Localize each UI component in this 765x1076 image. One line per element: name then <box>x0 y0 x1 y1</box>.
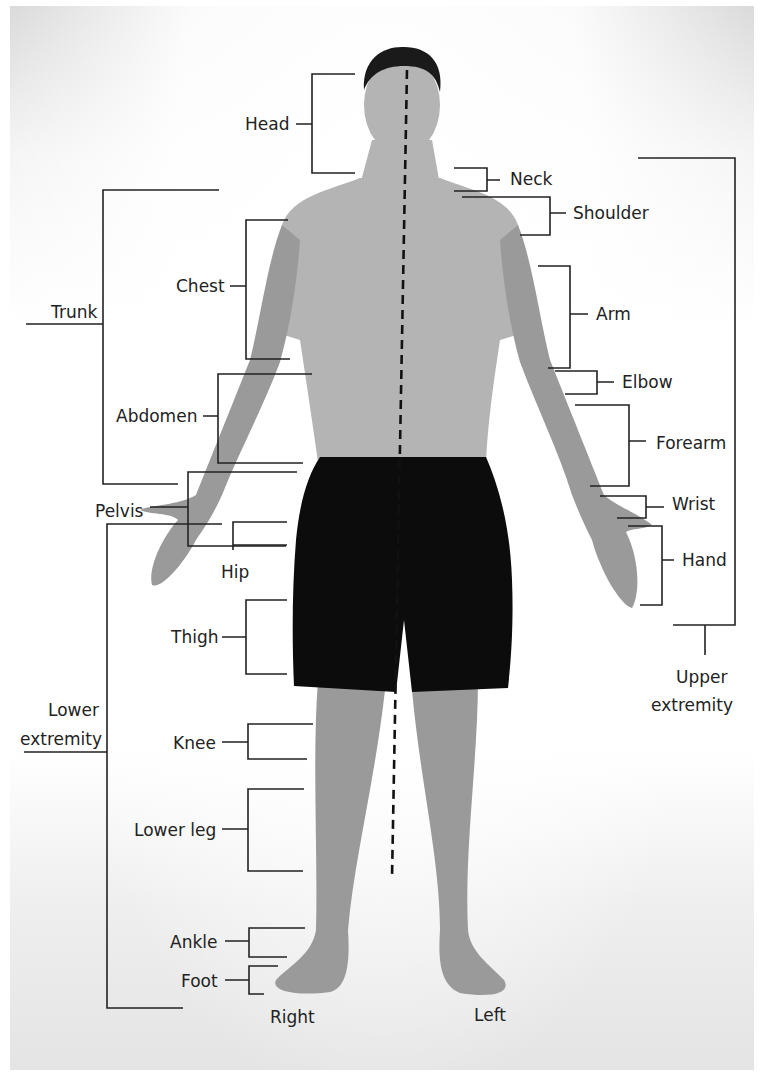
trunk-bracket <box>26 190 219 484</box>
thigh-bracket <box>222 600 287 674</box>
label-abdomen: Abdomen <box>116 406 197 426</box>
label-lower-leg: Lower leg <box>134 820 216 840</box>
diagram-svg: HeadNeckShoulderTrunkChestArmElbowAbdome… <box>0 0 765 1076</box>
label-lower-extremity-1: Lower <box>48 700 99 720</box>
label-hand: Hand <box>682 550 727 570</box>
head-bracket <box>296 74 355 173</box>
label-pelvis: Pelvis <box>95 501 144 521</box>
upper-extremity-bracket <box>638 158 735 655</box>
right-leg <box>275 680 385 994</box>
label-neck: Neck <box>510 169 553 189</box>
label-forearm: Forearm <box>656 433 726 453</box>
label-elbow: Elbow <box>622 372 673 392</box>
foot-bracket <box>225 966 278 994</box>
knee-bracket <box>222 724 313 759</box>
label-chest: Chest <box>176 276 225 296</box>
label-shoulder: Shoulder <box>573 203 649 223</box>
label-lower-extremity-2: extremity <box>20 729 102 749</box>
label-head: Head <box>245 114 289 134</box>
side-labels: RightLeft <box>270 1005 506 1027</box>
label-upper-extremity-1: Upper <box>676 667 727 687</box>
label-ankle: Ankle <box>170 932 217 952</box>
elbow-bracket <box>555 371 614 394</box>
hip-bracket <box>233 522 287 550</box>
lower-leg-bracket <box>222 789 304 871</box>
label-wrist: Wrist <box>672 494 716 514</box>
label-knee: Knee <box>173 733 216 753</box>
ankle-bracket <box>225 928 305 957</box>
side-label-left: Left <box>474 1005 506 1025</box>
label-hip: Hip <box>221 562 249 582</box>
label-thigh: Thigh <box>170 627 218 647</box>
label-arm: Arm <box>596 304 631 324</box>
label-foot: Foot <box>181 971 218 991</box>
side-label-right: Right <box>270 1007 315 1027</box>
human-figure <box>140 47 652 995</box>
left-leg <box>412 680 506 995</box>
anatomy-diagram: HeadNeckShoulderTrunkChestArmElbowAbdome… <box>0 0 765 1076</box>
shorts <box>293 457 513 692</box>
label-trunk: Trunk <box>50 302 97 322</box>
label-upper-extremity-2: extremity <box>651 695 733 715</box>
